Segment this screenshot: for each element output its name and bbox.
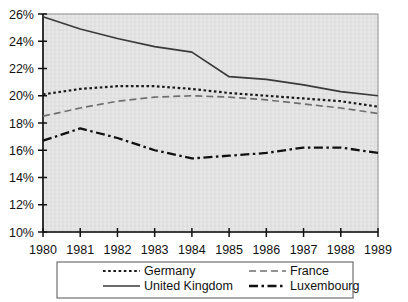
x-tick-label: 1981 (66, 243, 94, 257)
x-tick-label: 1984 (178, 243, 206, 257)
legend-label-united-kingdom: United Kingdom (144, 279, 233, 293)
line-chart: 10%12%14%16%18%20%22%24%26% 198019811982… (0, 0, 408, 302)
x-tick-label: 1986 (252, 243, 280, 257)
y-tick-label: 22% (9, 62, 34, 76)
y-tick-label: 20% (9, 89, 34, 103)
y-axis-ticks: 10%12%14%16%18%20%22%24%26% (9, 8, 47, 240)
plot-background (43, 14, 378, 232)
x-tick-label: 1980 (29, 243, 57, 257)
x-tick-label: 1982 (104, 243, 132, 257)
chart-container: 10%12%14%16%18%20%22%24%26% 198019811982… (0, 0, 408, 302)
y-tick-label: 16% (9, 144, 34, 158)
y-tick-label: 10% (9, 226, 34, 240)
legend-label-germany: Germany (144, 264, 196, 278)
y-tick-label: 18% (9, 117, 34, 131)
x-tick-label: 1988 (327, 243, 355, 257)
x-tick-label: 1987 (290, 243, 318, 257)
x-tick-label: 1983 (141, 243, 169, 257)
y-tick-label: 12% (9, 198, 34, 212)
y-tick-label: 14% (9, 171, 34, 185)
x-tick-label: 1989 (364, 243, 392, 257)
legend-label-luxembourg: Luxembourg (290, 279, 360, 293)
y-tick-label: 24% (9, 35, 34, 49)
legend-label-france: France (290, 264, 329, 278)
y-tick-label: 26% (9, 8, 34, 22)
x-tick-label: 1985 (215, 243, 243, 257)
